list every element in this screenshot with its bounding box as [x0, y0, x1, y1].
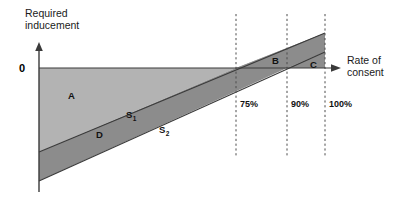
- tick-label-75: 75%: [240, 99, 258, 109]
- origin-zero-label: 0: [19, 62, 25, 74]
- supply-label-s2-subscript: 2: [166, 130, 170, 137]
- supply-label-s1-subscript: 1: [133, 115, 137, 122]
- x-axis-label-line2: consent: [347, 66, 384, 78]
- shaded-regions: [39, 33, 325, 181]
- supply-label-s1-text: S: [126, 109, 132, 120]
- x-axis-label-line1: Rate of: [347, 54, 381, 66]
- y-axis-label-line1: Required: [25, 7, 68, 19]
- supply-label-s2: S2: [159, 124, 170, 137]
- x-axis-arrow-icon: [331, 64, 341, 72]
- region-label-a: A: [68, 90, 75, 101]
- required-inducement-chart: Required inducement 0 Rate of consent A …: [0, 0, 403, 202]
- chart-canvas: Required inducement 0 Rate of consent A …: [0, 0, 403, 202]
- y-axis-label-line2: inducement: [25, 19, 79, 31]
- region-label-d: D: [96, 129, 103, 140]
- tick-label-90: 90%: [291, 99, 309, 109]
- y-axis-arrow-icon: [35, 42, 43, 51]
- supply-label-s2-text: S: [159, 124, 165, 135]
- region-label-b: B: [272, 55, 279, 66]
- region-label-c: C: [310, 59, 317, 70]
- tick-label-100: 100%: [329, 99, 352, 109]
